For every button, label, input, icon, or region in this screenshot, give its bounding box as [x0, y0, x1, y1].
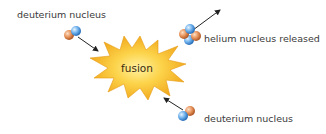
neutron-icon [71, 26, 81, 36]
arrow-to-fusion-icon [164, 98, 183, 110]
arrow-outward-icon [193, 10, 220, 30]
fusion-diagram: fusion deuterium nucleus helium nucleus … [0, 0, 326, 134]
fusion-label: fusion [121, 62, 153, 74]
deuterium-label-top: deuterium nucleus [17, 9, 106, 20]
deuterium-label-bottom: deuterium nucleus [204, 113, 293, 124]
deuterium-nucleus-bottom-right: deuterium nucleus [164, 98, 293, 124]
helium-nucleus: helium nucleus released [179, 10, 320, 45]
helium-label: helium nucleus released [204, 33, 320, 44]
fusion-starburst: fusion [90, 36, 186, 100]
deuterium-nucleus-top-left: deuterium nucleus [17, 9, 106, 51]
arrow-to-fusion-icon [78, 37, 98, 51]
neutron-icon [178, 111, 188, 121]
neutron-icon [185, 24, 195, 34]
